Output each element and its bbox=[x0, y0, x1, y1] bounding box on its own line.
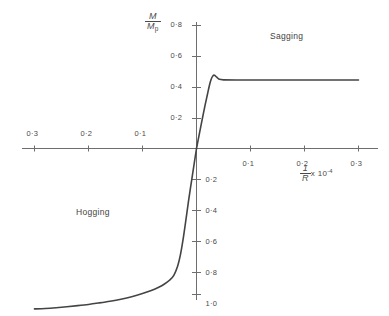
x-axis-exponent: -4 bbox=[327, 168, 333, 174]
x-tick-label-pos-1: 0·2 bbox=[297, 159, 309, 168]
y-axis-fraction: M Mp bbox=[145, 12, 161, 33]
y-tick-label-neg-1: 0·4 bbox=[206, 206, 218, 215]
y-tick-label-neg-4: 1·0 bbox=[206, 299, 218, 308]
y-tick-label-pos-2: 0·4 bbox=[171, 82, 183, 91]
moment-curvature-chart: M Mp 1 R x 10-4 Sagging Hogging 0·30·20·… bbox=[0, 0, 389, 316]
x-tick-label-neg-0: 0·3 bbox=[27, 129, 39, 138]
y-tick-label-neg-2: 0·6 bbox=[206, 237, 218, 246]
x-tick-label-neg-2: 0·1 bbox=[135, 129, 147, 138]
y-axis-denominator-subscript: p bbox=[155, 25, 159, 32]
y-tick-label-pos-1: 0·6 bbox=[171, 51, 183, 60]
x-tick-label-pos-0: 0·1 bbox=[243, 159, 255, 168]
hogging-curve bbox=[35, 149, 197, 309]
y-axis-denominator: Mp bbox=[145, 22, 161, 32]
y-tick-label-neg-0: 0·2 bbox=[206, 175, 218, 184]
x-tick-label-pos-2: 0·3 bbox=[351, 159, 363, 168]
x-tick-label-neg-1: 0·2 bbox=[81, 129, 93, 138]
hogging-annotation: Hogging bbox=[76, 207, 110, 217]
x-axis-denominator: R bbox=[300, 174, 311, 183]
y-tick-label-pos-3: 0·2 bbox=[171, 113, 183, 122]
sagging-annotation: Sagging bbox=[270, 31, 303, 41]
y-tick-label-neg-3: 0·8 bbox=[206, 268, 218, 277]
y-axis-title: M Mp bbox=[145, 12, 161, 33]
y-tick-label-pos-0: 0·8 bbox=[171, 20, 183, 29]
x-axis-multiplier: x 10 bbox=[311, 169, 327, 178]
plot-area bbox=[0, 0, 389, 316]
sagging-curve bbox=[197, 75, 359, 148]
